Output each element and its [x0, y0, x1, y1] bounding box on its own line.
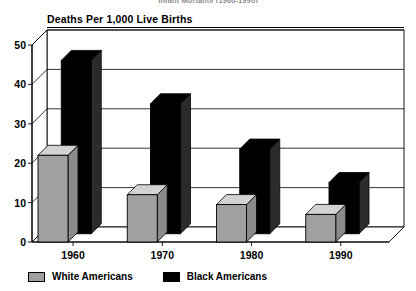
- x-tick-label-1970: 1970: [132, 249, 192, 261]
- x-tick-label-1980: 1980: [222, 249, 282, 261]
- y-tick-label-10: 10: [2, 197, 26, 209]
- chart-page: Infant Mortality (1960-1990) Deaths Per …: [0, 0, 416, 291]
- x-tick-label-1960: 1960: [43, 249, 103, 261]
- chart-legend: White AmericansBlack Americans: [28, 271, 297, 282]
- bar-white-1980: [217, 195, 257, 242]
- bar-white-1960: [38, 145, 78, 242]
- legend-swatch-black-americans: [163, 272, 180, 282]
- y-tick-label-0: 0: [2, 236, 26, 248]
- x-tick-label-1990: 1990: [311, 249, 371, 261]
- legend-item-black-americans: Black Americans: [163, 271, 267, 282]
- y-tick-label-20: 20: [2, 157, 26, 169]
- bar-white-1990: [306, 204, 346, 242]
- bar-white-1970: [127, 185, 167, 242]
- chart-plot-area: [0, 0, 416, 291]
- legend-swatch-white-americans: [28, 272, 45, 282]
- bar-chart-svg: [0, 0, 416, 291]
- y-tick-label-40: 40: [2, 78, 26, 90]
- legend-label-white-americans: White Americans: [52, 271, 133, 282]
- y-tick-label-50: 50: [2, 39, 26, 51]
- legend-item-white-americans: White Americans: [28, 271, 133, 282]
- legend-label-black-americans: Black Americans: [187, 271, 267, 282]
- y-tick-label-30: 30: [2, 118, 26, 130]
